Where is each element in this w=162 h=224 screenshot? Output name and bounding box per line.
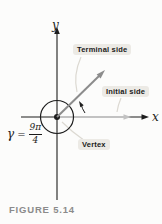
fraction-denominator: 4	[33, 135, 39, 146]
equals-sign: =	[17, 129, 25, 140]
initial-side-arrowhead-icon	[124, 114, 132, 120]
vertex-label: Vertex	[78, 139, 110, 150]
angle-standard-position-figure: y x Terminal side Initial side Vertex γ …	[0, 0, 162, 224]
angle-fraction: 9π 4	[29, 123, 43, 145]
initial-side-leader-line	[117, 98, 121, 112]
terminal-side-label: Terminal side	[73, 44, 131, 55]
fraction-numerator: 9π	[29, 123, 43, 135]
terminal-side-leader-line	[76, 57, 81, 92]
diagram-canvas: y x	[0, 0, 162, 224]
gamma-symbol: γ	[7, 127, 14, 141]
angle-measure-label: γ = 9π 4	[7, 123, 42, 145]
y-axis-label: y	[51, 18, 59, 32]
rotation-direction-arrowhead-icon	[79, 101, 84, 107]
x-axis-label: x	[152, 110, 159, 124]
figure-caption: FIGURE 5.14	[9, 204, 75, 215]
terminal-side-ray	[57, 76, 99, 117]
x-axis-arrowhead-icon	[142, 114, 150, 120]
initial-side-label: Initial side	[102, 86, 149, 97]
